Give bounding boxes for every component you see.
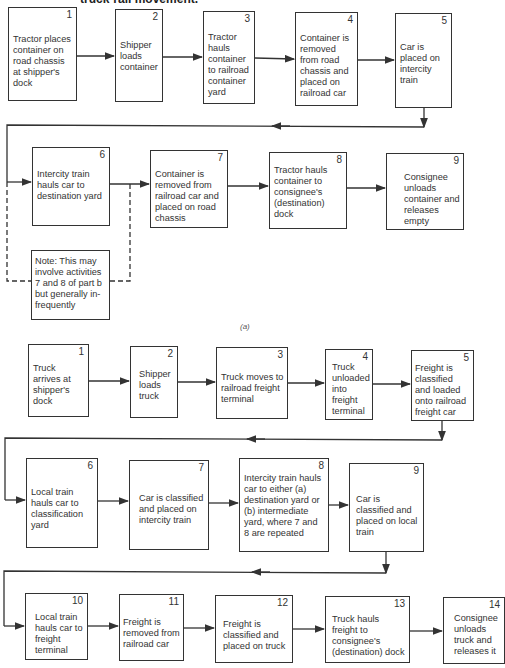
step-box-b13: 13 Truck hauls freight to consignee's (d… — [325, 596, 410, 663]
step-text: Truck arrives at shipper's dock — [33, 363, 85, 407]
step-number: 13 — [394, 598, 405, 609]
step-number: 3 — [277, 349, 283, 360]
step-text: Freight is classified and placed on truc… — [223, 619, 289, 652]
step-text: Consignee unloads container and releases… — [404, 172, 460, 227]
step-number: 11 — [169, 596, 179, 607]
step-text: Tractor places container on road chassis… — [13, 34, 73, 89]
step-number: 5 — [463, 352, 469, 363]
step-box-a6: 6 Intercity train hauls car to destinati… — [32, 147, 110, 226]
step-number: 2 — [167, 348, 173, 359]
step-box-a7: 7 Container is removed from railroad car… — [150, 150, 228, 228]
step-number: 5 — [441, 15, 447, 26]
step-box-b1: 1 Truck arrives at shipper's dock — [28, 344, 89, 417]
step-text: Consignee unloads truck and releases it — [454, 613, 501, 657]
step-box-a4: 4 Container is removed from road chassis… — [295, 12, 358, 106]
step-number: 1 — [66, 9, 72, 20]
step-text: Truck unloaded into freight terminal — [332, 362, 369, 417]
dashed-bypass-right — [110, 184, 130, 281]
step-box-b9: 9 Car is classified and placed on local … — [349, 463, 424, 552]
step-box-a9: 9 Consignee unloads container and releas… — [386, 153, 464, 230]
step-box-b10: 10 Local train hauls car to freight term… — [25, 593, 88, 660]
step-number: 3 — [244, 13, 250, 24]
step-number: 2 — [152, 11, 158, 22]
step-text: Truck moves to railroad freight terminal — [221, 372, 284, 405]
note-text: Note: This may involve activities 7 and … — [35, 256, 106, 311]
step-box-a1: 1 Tractor places container on road chass… — [8, 7, 77, 101]
step-number: 4 — [362, 351, 368, 362]
step-number: 6 — [87, 460, 93, 471]
step-text: Local train hauls car to classification … — [31, 487, 94, 531]
arrow-a-3-4 — [255, 58, 294, 59]
step-box-b6: 6 Local train hauls car to classificatio… — [26, 458, 98, 548]
step-text: Tractor hauls container to consignee's (… — [274, 165, 343, 220]
step-text: Truck hauls freight to consignee's (dest… — [332, 614, 406, 658]
step-text: Shipper loads truck — [139, 369, 174, 402]
step-box-a2: 2 Shipper loads container — [115, 9, 163, 102]
step-box-b14: 14 Consignee unloads truck and releases … — [443, 597, 505, 664]
step-number: 14 — [489, 599, 500, 610]
step-number: 12 — [277, 597, 288, 608]
step-text: Freight is removed from railroad car — [123, 617, 180, 650]
step-box-b8: 8 Intercity train hauls car to either (a… — [239, 458, 329, 552]
step-box-b12: 12 Freight is classified and placed on t… — [215, 595, 293, 663]
step-text: Tractor hauls container to railroad cont… — [208, 32, 251, 98]
step-box-a8: 8 Tractor hauls container to consignee's… — [269, 152, 347, 229]
step-text: Container is removed from road chassis a… — [300, 33, 354, 99]
step-text: Freight is classified and loaded onto ra… — [415, 363, 470, 418]
step-number: 8 — [336, 154, 342, 165]
step-box-b2: 2 Shipper loads truck — [130, 346, 178, 418]
step-text: Intercity train hauls car to destination… — [37, 169, 106, 202]
step-text: Car is classified and placed on local tr… — [356, 494, 420, 538]
step-box-b5: 5 Freight is classified and loaded onto … — [411, 350, 474, 421]
step-number: 9 — [413, 465, 419, 476]
step-text: Intercity train hauls car to either (a) … — [244, 473, 325, 539]
step-number: 7 — [198, 462, 204, 473]
note-box: Note: This may involve activities 7 and … — [31, 250, 110, 320]
step-box-b7: 7 Car is classified and placed on interc… — [129, 460, 209, 550]
step-text: Car is placed on intercity train — [400, 42, 448, 86]
step-number: 8 — [318, 460, 324, 471]
step-number: 1 — [78, 346, 84, 357]
step-number: 9 — [453, 155, 459, 166]
step-box-b4: 4 Truck unloaded into freight terminal — [325, 349, 373, 420]
step-text: Shipper loads container — [120, 40, 159, 73]
step-number: 4 — [347, 14, 353, 25]
step-number: 10 — [72, 595, 83, 606]
step-number: 7 — [217, 152, 223, 163]
step-text: Car is classified and placed on intercit… — [139, 493, 205, 526]
step-box-a5: 5 Car is placed on intercity train — [395, 13, 452, 108]
step-box-b11: 11 Freight is removed from railroad car — [119, 594, 184, 661]
step-text: Local train hauls car to freight termina… — [35, 612, 84, 656]
dashed-bypass-left — [7, 182, 31, 281]
step-box-b3: 3 Truck moves to railroad freight termin… — [216, 347, 288, 419]
step-box-a3: 3 Tractor hauls container to railroad co… — [203, 11, 255, 104]
step-text: Container is removed from railroad car a… — [155, 169, 224, 224]
caption-a: (a) — [240, 322, 250, 331]
step-number: 6 — [99, 149, 105, 160]
